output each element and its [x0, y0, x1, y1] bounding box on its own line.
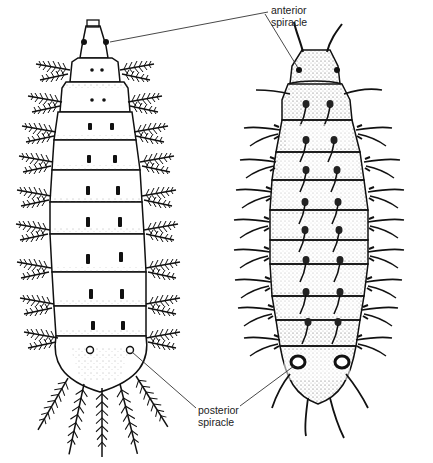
- left-larva: [16, 20, 180, 457]
- anterior-label-line2: spiracle: [271, 16, 307, 28]
- larvae-illustration: anterior spiracle posterior spiracle: [0, 0, 433, 463]
- anterior-label-line1: anterior: [271, 4, 307, 16]
- anterior-leader-line-left: [110, 12, 268, 42]
- posterior-leader-line-right: [240, 366, 294, 406]
- posterior-spiracle-label: posterior spiracle: [198, 404, 239, 428]
- posterior-label-line2: spiracle: [198, 416, 239, 428]
- illustration-svg: [0, 0, 433, 463]
- posterior-label-line1: posterior: [198, 404, 239, 416]
- posterior-leader-line-left: [132, 352, 196, 408]
- right-larva: [234, 22, 404, 438]
- anterior-spiracle-label: anterior spiracle: [271, 4, 307, 28]
